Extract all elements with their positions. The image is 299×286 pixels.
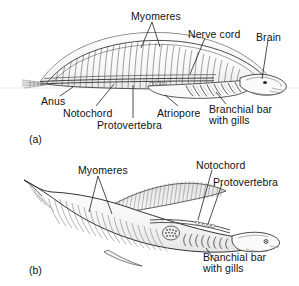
label-branchial-bar-a-line2: with gills (209, 115, 250, 127)
label-myomeres-b: Myomeres (78, 165, 128, 177)
panel-tag-a: (a) (29, 133, 42, 145)
label-atriopore-a: Atriopore (157, 108, 201, 120)
panel-tag-b: (b) (29, 264, 42, 276)
label-protovertebra-a: Protovertebra (97, 120, 162, 132)
label-anus-a: Anus (41, 96, 65, 108)
label-protovertebra-b: Protovertebra (213, 177, 278, 189)
label-notochord-a: Notochord (63, 108, 112, 120)
head-a (240, 74, 286, 95)
label-brain-a: Brain (256, 32, 281, 44)
brain-structure-a (263, 81, 267, 84)
figure-root: Myomeres Nerve cord Brain Anus Notochord… (0, 0, 299, 286)
label-branchial-bar-b-line2: with gills (203, 263, 244, 275)
chordate-anatomy-illustration (0, 0, 299, 286)
ventral-fin-b (104, 250, 142, 266)
otic-rosette-b (163, 226, 180, 240)
label-nerve-cord-a: Nerve cord (188, 29, 240, 41)
label-notochord-b: Notochord (196, 160, 245, 172)
label-myomeres-a: Myomeres (131, 11, 181, 23)
